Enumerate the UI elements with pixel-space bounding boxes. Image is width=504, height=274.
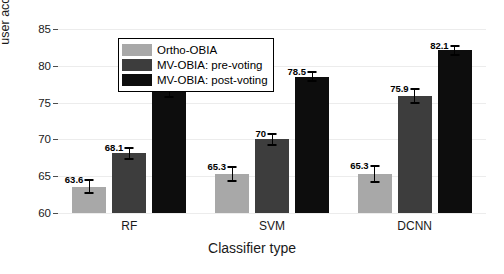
error-bar-cap [228,166,237,168]
bar-value-label: 65.3 [208,161,227,172]
chart-legend: Ortho-OBIA MV-OBIA: pre-voting MV-OBIA: … [118,38,274,92]
bar [398,96,432,213]
y-tick-mark [53,29,58,30]
legend-label-ortho-obia: Ortho-OBIA [157,44,217,56]
x-tick-label: RF [121,219,137,233]
y-tick-label: 85 [38,23,51,35]
legend-label-mv-obia-pre-voting: MV-OBIA: pre-voting [157,59,262,71]
y-tick-mark [53,176,58,177]
y-tick-label: 65 [38,170,51,182]
error-bar-cap [125,158,134,160]
error-bar-cap [370,165,379,167]
error-bar-cap [308,80,317,82]
bar-value-label: 70 [255,128,266,139]
bar-value-label: 75.9 [390,83,409,94]
bar [438,50,472,213]
bar-value-label: 82.1 [430,40,449,51]
error-bar-cap [308,71,317,73]
x-tick-label: DCNN [397,219,432,233]
error-bar [89,180,90,193]
bar [112,153,146,213]
error-bar-cap [450,54,459,56]
error-bar-cap [165,96,174,98]
error-bar [414,89,415,104]
y-axis-title: user accuracy(%) [0,0,12,56]
error-bar-cap [268,144,277,146]
error-bar-cap [410,88,419,90]
legend-item: Ortho-OBIA [122,43,268,57]
bar [255,139,289,213]
bar-value-label: 68.1 [105,142,124,153]
bar-value-label: 63.6 [65,174,84,185]
y-tick-mark [53,139,58,140]
error-bar [232,167,233,182]
error-bar-cap [228,180,237,182]
y-tick-label: 80 [38,60,51,72]
bar-value-label: 65.3 [350,160,369,171]
bar [295,77,329,213]
bar-value-label: 78.5 [288,66,307,77]
legend-item: MV-OBIA: post-voting [122,73,268,87]
y-tick-mark [53,103,58,104]
error-bar-cap [85,192,94,194]
y-tick-mark [53,213,58,214]
gridline [58,213,486,214]
error-bar-cap [85,179,94,181]
gridline [58,29,486,30]
y-tick-label: 75 [38,97,51,109]
error-bar-cap [125,147,134,149]
y-tick-mark [53,66,58,67]
legend-label-mv-obia-post-voting: MV-OBIA: post-voting [157,74,268,86]
error-bar [374,166,375,182]
error-bar-cap [410,102,419,104]
legend-item: MV-OBIA: pre-voting [122,58,268,72]
y-tick-label: 70 [38,133,51,145]
x-axis-title: Classifier type [0,240,504,256]
plot-area: 606570758085 63.668.177.265.37078.565.37… [58,18,486,213]
x-tick-label: SVM [259,219,285,233]
legend-swatch-mv-obia-pre-voting [122,59,152,71]
error-bar-cap [450,45,459,47]
bar-chart-figure: user accuracy(%) 606570758085 63.668.177… [0,0,504,274]
legend-swatch-ortho-obia [122,44,152,56]
y-tick-label: 60 [38,207,51,219]
legend-swatch-mv-obia-post-voting [122,74,152,86]
error-bar-cap [370,181,379,183]
bar [152,86,186,213]
error-bar-cap [268,133,277,135]
